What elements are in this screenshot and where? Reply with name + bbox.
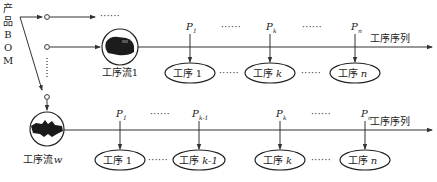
svg-text:k: k [276, 68, 282, 79]
product-bom-process-diagram: 产 品 B O M ······ 工序流1 工序序列 P 1 [0, 0, 437, 182]
bom-char: O [4, 42, 12, 53]
svg-text:n: n [368, 114, 372, 121]
svg-text:k: k [286, 155, 292, 166]
param-Pn: P n [350, 21, 362, 62]
process-node-k: 工序 k [245, 63, 295, 83]
bom-char: 产 [3, 2, 13, 14]
param-P1: P 1 [185, 21, 197, 62]
svg-text:1: 1 [193, 27, 197, 34]
svg-text:P: P [265, 21, 273, 32]
bom-branches: ······ [20, 11, 120, 110]
svg-text:工序: 工序 [348, 154, 368, 166]
ellipsis: ······ [311, 109, 331, 119]
process-node-1: 工序 1 [95, 150, 145, 170]
ellipsis: ······ [150, 109, 170, 119]
process-node-k: 工序 k [255, 150, 305, 170]
svg-text:1: 1 [196, 68, 202, 79]
svg-text:k: k [273, 27, 277, 34]
param-Pk: P k [265, 21, 277, 62]
param-Pn: P n [360, 108, 372, 149]
svg-text:k-1: k-1 [202, 155, 218, 166]
branch-arrow-diagonal [20, 17, 42, 90]
ellipsis: ······ [221, 22, 241, 32]
svg-text:工序: 工序 [179, 154, 199, 166]
svg-text:工序: 工序 [103, 154, 123, 166]
svg-text:P: P [115, 108, 123, 119]
bom-char: B [4, 29, 11, 40]
process-stream-1: 工序流1 工序序列 P 1 ······ P k ······ P n 工序 1… [102, 21, 432, 83]
ellipsis: ······ [311, 155, 331, 165]
process-stream-w: 工序流 w 工序序列 P 1 ······ P k-1 P k ······ P… [23, 108, 432, 170]
svg-text:工序: 工序 [263, 154, 283, 166]
stream-label: 工序流1 [102, 66, 138, 78]
sequence-label: 工序序列 [370, 115, 410, 127]
svg-text:1: 1 [126, 155, 132, 166]
svg-text:工序: 工序 [338, 67, 358, 79]
sequence-label: 工序序列 [370, 32, 410, 44]
param-Pk: P k [275, 108, 287, 149]
process-node-k-1: 工序 k-1 [173, 150, 225, 170]
svg-text:k-1: k-1 [199, 114, 208, 121]
node-circle [45, 95, 50, 100]
node-circle [45, 15, 50, 20]
ellipsis: ······ [100, 11, 120, 21]
node-circle [45, 45, 50, 50]
ellipsis: ······ [302, 22, 322, 32]
svg-text:工序: 工序 [253, 67, 273, 79]
svg-text:n: n [361, 68, 367, 79]
svg-text:P: P [191, 108, 199, 119]
svg-text:P: P [275, 108, 283, 119]
param-P1: P 1 [115, 108, 127, 149]
ellipsis: ······ [148, 155, 168, 165]
param-Pk-1: P k-1 [191, 108, 208, 149]
svg-text:工序: 工序 [173, 67, 193, 79]
bom-char: M [3, 55, 13, 66]
process-node-n: 工序 n [340, 150, 390, 170]
stream-label: 工序流 [23, 153, 53, 165]
svg-text:P: P [350, 21, 358, 32]
part-icon [105, 37, 134, 55]
svg-text:n: n [371, 155, 377, 166]
svg-text:P: P [360, 108, 368, 119]
svg-text:1: 1 [123, 114, 127, 121]
process-node-n: 工序 n [330, 63, 380, 83]
ellipsis: ······ [219, 68, 239, 78]
bom-char: 品 [3, 16, 13, 27]
svg-text:k: k [283, 114, 287, 121]
ellipsis: ······ [301, 68, 321, 78]
svg-text:n: n [358, 27, 362, 34]
process-node-1: 工序 1 [165, 63, 215, 83]
bom-source-label: 产 品 B O M [3, 2, 13, 66]
stream-label-index: w [54, 154, 63, 165]
svg-text:P: P [185, 21, 193, 32]
